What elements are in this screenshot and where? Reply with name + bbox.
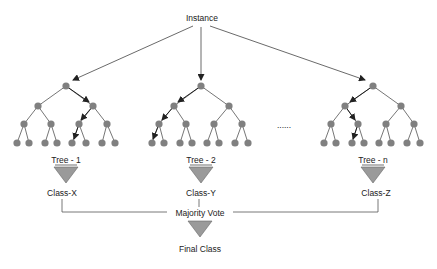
majority-vote-label: Majority Vote	[175, 208, 224, 218]
class-z-label: Class-Z	[361, 188, 390, 198]
tree-2-triangle-icon	[189, 167, 213, 183]
random-forest-diagram: Instance	[0, 0, 437, 269]
tree-n-triangle-icon	[361, 167, 385, 183]
instance-arrows	[73, 26, 365, 80]
final-class-label: Final Class	[179, 244, 221, 254]
tree-1	[13, 82, 118, 146]
class-x-label: Class-X	[47, 188, 77, 198]
tree-n-label: Tree - n	[358, 155, 388, 165]
tree-1-triangle-icon	[54, 167, 78, 183]
tree-2-output: Tree - 2 Class-Y	[186, 155, 216, 198]
tree-1-label: Tree - 1	[51, 155, 81, 165]
class-y-label: Class-Y	[186, 188, 216, 198]
ellipsis: ......	[277, 120, 291, 130]
tree-2-label: Tree - 2	[186, 155, 216, 165]
tree-n-output: Tree - n Class-Z	[358, 155, 390, 198]
tree-1-output: Tree - 1 Class-X	[47, 155, 81, 198]
tree-1-nodes	[13, 82, 118, 146]
tree-n	[320, 82, 423, 146]
tree-2-nodes	[148, 82, 251, 146]
instance-label: Instance	[186, 13, 218, 23]
final-triangle-icon	[188, 221, 212, 237]
tree-2	[148, 82, 251, 146]
tree-n-nodes	[320, 82, 423, 146]
